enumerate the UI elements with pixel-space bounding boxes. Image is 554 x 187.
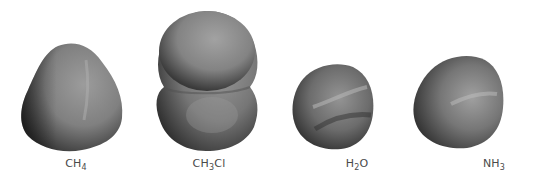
nh3-label: NH3 <box>483 157 505 170</box>
h2o-label: H2O <box>346 157 369 170</box>
h2o-surface-icon <box>291 61 375 151</box>
ch3cl-surface <box>154 9 260 152</box>
ch3cl-surface-icon <box>154 9 260 152</box>
ch4-label: CH4 <box>65 157 87 170</box>
nh3-surface <box>411 52 507 150</box>
ch3cl-label: CH3Cl <box>193 157 226 170</box>
nh3-surface-icon <box>411 52 507 150</box>
h2o-surface <box>291 61 375 151</box>
ch4-surface-icon <box>18 40 128 154</box>
ch4-surface <box>18 40 128 154</box>
